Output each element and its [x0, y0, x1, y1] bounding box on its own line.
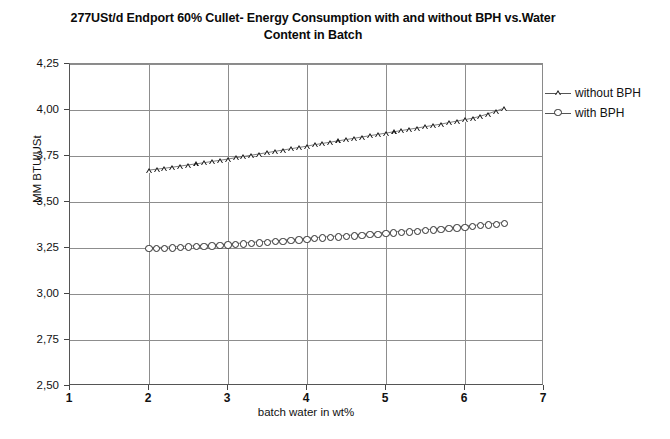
y-tick-label: 2,50	[13, 379, 59, 391]
y-tick-mark	[64, 63, 69, 64]
x-tick-mark	[227, 385, 228, 390]
x-tick-mark	[306, 385, 307, 390]
legend-item-with-bph[interactable]: with BPH	[545, 104, 665, 121]
x-axis-title: batch water in wt%	[69, 406, 543, 418]
y-tick-label: 4,00	[13, 103, 59, 115]
y-tick-mark	[64, 201, 69, 202]
y-tick-mark	[64, 109, 69, 110]
x-tick-mark	[385, 385, 386, 390]
plot-area	[69, 63, 543, 385]
x-tick-label: 1	[54, 391, 84, 405]
chart-page: 277USt/d Endport 60% Cullet- Energy Cons…	[0, 0, 670, 439]
chart-title: 277USt/d Endport 60% Cullet- Energy Cons…	[48, 10, 578, 44]
y-tick-mark	[64, 247, 69, 248]
x-tick-mark	[543, 385, 544, 390]
y-tick-label: 2,75	[13, 333, 59, 345]
x-tick-label: 7	[528, 391, 558, 405]
x-tick-mark	[148, 385, 149, 390]
x-tick-label: 6	[449, 391, 479, 405]
y-tick-label: 3,50	[13, 195, 59, 207]
circle-marker-icon	[545, 107, 571, 119]
y-tick-mark	[64, 155, 69, 156]
x-tick-mark	[69, 385, 70, 390]
y-tick-mark	[64, 339, 69, 340]
y-tick-mark	[64, 293, 69, 294]
x-tick-label: 2	[133, 391, 163, 405]
x-tick-label: 3	[212, 391, 242, 405]
triangle-marker-icon	[545, 87, 571, 99]
x-tick-label: 4	[291, 391, 321, 405]
chart-legend: without BPHwith BPH	[545, 84, 665, 124]
y-tick-label: 3,00	[13, 287, 59, 299]
series-lines	[70, 64, 542, 384]
legend-label: with BPH	[571, 106, 624, 120]
y-axis-title: MM BTU/USt	[31, 135, 43, 203]
x-tick-label: 5	[370, 391, 400, 405]
legend-label: without BPH	[571, 86, 641, 100]
plot-wrapper: MM BTU/USt batch water in wt% 2,502,753,…	[69, 63, 543, 385]
y-tick-label: 3,25	[13, 241, 59, 253]
x-tick-mark	[464, 385, 465, 390]
y-tick-label: 4,25	[13, 57, 59, 69]
legend-item-without-bph[interactable]: without BPH	[545, 84, 665, 101]
y-tick-label: 3,75	[13, 149, 59, 161]
